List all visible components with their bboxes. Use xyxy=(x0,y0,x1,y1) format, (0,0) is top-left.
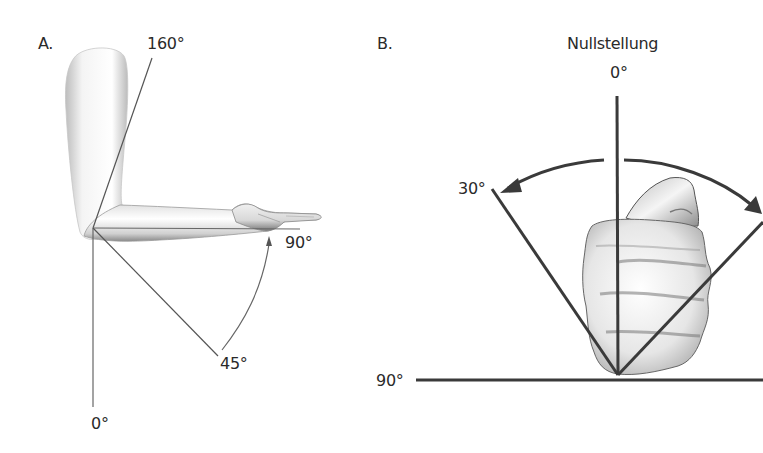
angle-label-90: 90° xyxy=(376,373,403,389)
neutral-position-title: Nullstellung xyxy=(567,36,658,52)
line-0-degree xyxy=(617,96,618,375)
angle-label-160: 160° xyxy=(147,36,184,52)
arrowhead-right-icon xyxy=(744,196,762,214)
arrowhead-left-icon xyxy=(500,178,522,193)
angle-label-0: 0° xyxy=(610,65,628,81)
angle-label-30: 30° xyxy=(458,181,485,197)
line-45-degree xyxy=(93,228,218,356)
arm-illustration xyxy=(0,0,360,453)
panel-b-label: B. xyxy=(377,36,392,52)
panel-a-label: A. xyxy=(38,36,53,52)
angle-label-90: 90° xyxy=(285,235,312,251)
fist-illustration xyxy=(360,0,763,453)
panel-b-forearm-rotation: B. Nullstellung 0° 30° 90° xyxy=(360,0,763,453)
pronation-arc-arrow xyxy=(508,160,604,188)
arrowhead-icon xyxy=(266,236,272,246)
panel-a-elbow-flexion: A. 160° 90° 45° 0° xyxy=(0,0,360,453)
angle-label-0: 0° xyxy=(91,416,109,432)
flexion-arc-arrow xyxy=(222,244,269,350)
angle-label-45: 45° xyxy=(220,356,247,372)
